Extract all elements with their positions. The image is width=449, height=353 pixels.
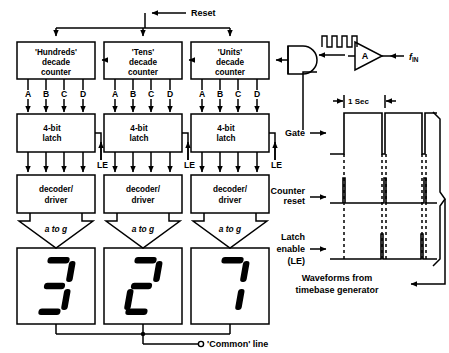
le-label-tens: LE [184, 160, 195, 170]
decoder-tens-line2: driver [132, 196, 156, 205]
pin-label-tens-d: D [167, 89, 173, 99]
latch-units-box [191, 114, 269, 152]
timing-guides [344, 154, 426, 259]
counter-tens-line1: 'Tens' [132, 48, 154, 57]
counter-units-line3: counter [215, 68, 246, 77]
pin-label-units-b: B [217, 89, 223, 99]
waveform-caption-line1: Waveforms from [302, 273, 373, 283]
decoder-hundreds-box [17, 175, 95, 213]
counter-units-line2: decade [216, 58, 245, 67]
fin-label: fIN [409, 52, 419, 63]
waveform-label-latch-enable-line1: Latch [281, 232, 305, 242]
frequency-counter-diagram: Reset 'Hundreds' decade counter 'Tens' d… [0, 0, 449, 353]
decoder-hundreds-line2: driver [45, 196, 69, 205]
waveform-label-latch-enable-line2: enable [276, 244, 305, 254]
pin-label-tens-c: C [148, 89, 154, 99]
waveform-latch-enable [330, 234, 437, 259]
pin-label-hundreds-d: D [80, 89, 86, 99]
decoder-units-box [191, 175, 269, 213]
waveform-label-counter-reset-line2: reset [283, 196, 305, 206]
diagram-canvas: Reset 'Hundreds' decade counter 'Tens' d… [0, 0, 449, 353]
segment-bus-label-hundreds: a to g [45, 224, 67, 234]
square-wave-icon [322, 36, 357, 47]
le-hooks [95, 133, 275, 160]
waveform-gate [330, 113, 437, 154]
pin-label-tens-a: A [112, 89, 118, 99]
decoder-hundreds-line1: decoder/ [39, 185, 74, 194]
le-label-units: LE [271, 160, 282, 170]
decoder-units-line2: driver [219, 196, 243, 205]
latch-units-line2: latch [216, 134, 235, 143]
pin-label-hundreds-c: C [61, 89, 67, 99]
amplifier-label: A [362, 51, 369, 61]
counter-units-line1: 'Units' [218, 48, 242, 57]
pin-label-units-a: A [199, 89, 205, 99]
latch-tens-line2: latch [129, 134, 148, 143]
counter-tens-line3: counter [128, 68, 159, 77]
seven-segment-digit-tens [123, 257, 164, 315]
common-junction-dot [141, 332, 145, 336]
segment-bus-label-units: a to g [219, 224, 241, 234]
latch-hundreds-line1: 4-bit [43, 124, 61, 133]
reset-label: Reset [191, 8, 216, 18]
decoder-tens-box [104, 175, 182, 213]
pin-label-units-d: D [254, 89, 260, 99]
latch-tens-box [104, 114, 182, 152]
waveform-caption-line2: timebase generator [295, 285, 379, 295]
counter-hundreds-line3: counter [41, 68, 72, 77]
pin-label-tens-b: B [130, 89, 136, 99]
waveform-label-gate: Gate [285, 128, 305, 138]
latch-hundreds-box [17, 114, 95, 152]
latch-decoder-buses [28, 152, 257, 172]
waveform-label-latch-enable-line3: (LE) [288, 256, 306, 266]
segment-bus-label-tens: a to g [132, 224, 154, 234]
latch-tens-line1: 4-bit [130, 124, 148, 133]
text-layer: Reset 'Hundreds' decade counter 'Tens' d… [25, 8, 419, 349]
seven-segment-digit-hundreds [38, 257, 77, 315]
one-second-label: 1 Sec [348, 97, 369, 106]
decoder-tens-line1: decoder/ [126, 185, 161, 194]
common-terminal-icon [198, 341, 203, 346]
pin-label-hundreds-b: B [43, 89, 49, 99]
le-label-hundreds: LE [97, 160, 108, 170]
pin-label-units-c: C [235, 89, 241, 99]
waveform-counter-reset [330, 178, 437, 203]
decoder-units-line1: decoder/ [213, 185, 248, 194]
counter-hundreds-line1: 'Hundreds' [35, 48, 77, 57]
pin-label-hundreds-a: A [25, 89, 31, 99]
and-gate [286, 46, 345, 130]
counter-tens-line2: decade [129, 58, 158, 67]
common-line-label: 'Common' line [207, 339, 268, 349]
seven-segment-digit-units [213, 257, 251, 310]
counter-hundreds-line2: decade [42, 58, 71, 67]
latch-hundreds-line2: latch [42, 134, 61, 143]
latch-units-line1: 4-bit [217, 124, 235, 133]
waveform-label-counter-reset-line1: Counter [271, 186, 306, 196]
